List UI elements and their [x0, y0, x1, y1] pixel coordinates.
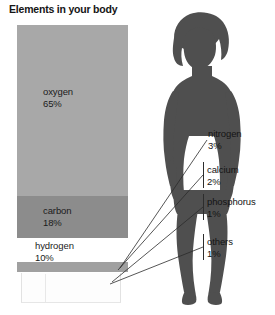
callout-nitrogen-name: nitrogen	[208, 128, 242, 139]
bracket-tick-calcium	[203, 162, 204, 188]
callout-nitrogen-value: 3%	[208, 140, 242, 152]
callout-calcium-name: calcium	[207, 164, 239, 175]
callout-phosphorus: phosphorus 1%	[207, 196, 256, 219]
bracket-tick-phosphorus	[203, 194, 204, 220]
callout-others: others 1%	[207, 236, 233, 259]
leader-line-others	[110, 247, 203, 284]
callout-phosphorus-value: 1%	[207, 208, 256, 220]
callout-nitrogen: nitrogen 3%	[208, 128, 242, 151]
callout-phosphorus-name: phosphorus	[207, 196, 256, 207]
leader-line-calcium	[118, 175, 203, 270]
callout-leader-lines	[0, 0, 275, 315]
callout-calcium-value: 2%	[207, 176, 239, 188]
callout-others-name: others	[207, 236, 233, 247]
leader-line-phosphorus	[112, 207, 203, 282]
callout-others-value: 1%	[207, 248, 233, 260]
infographic-figure: Elements in your body oxygen 65% carbon …	[0, 0, 275, 315]
bracket-tick-others	[203, 234, 204, 260]
leader-line-nitrogen	[120, 140, 207, 268]
callout-calcium: calcium 2%	[207, 164, 239, 187]
